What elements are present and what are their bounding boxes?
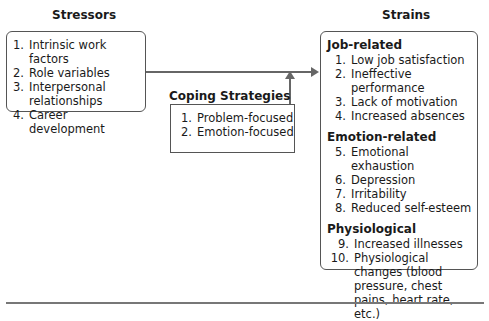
section-title-emotion-related: Emotion-related	[327, 129, 473, 145]
list-item: 5.Emotional exhaustion	[335, 145, 473, 173]
list-item: 6.Depression	[335, 173, 473, 187]
section-title-job-related: Job-related	[327, 37, 473, 53]
list-item: 2.Ineffective performance	[335, 67, 473, 95]
arrow-right-icon	[311, 67, 319, 77]
stressors-list: 1.Intrinsic work factors 2.Role variable…	[13, 38, 139, 136]
emotion-related-list: 5.Emotional exhaustion 6.Depression 7.Ir…	[327, 145, 473, 215]
stressors-heading: Stressors	[52, 8, 116, 22]
list-item: 9.Increased illnesses	[329, 237, 473, 251]
list-item: 1.Intrinsic work factors	[13, 38, 139, 66]
list-item: 7.Irritability	[335, 187, 473, 201]
physiological-list: 9.Increased illnesses 10.Physiological c…	[327, 237, 473, 321]
list-item: 2.Role variables	[13, 66, 139, 80]
stressors-box: 1.Intrinsic work factors 2.Role variable…	[6, 31, 146, 112]
list-item: 10.Physiological changes (blood pressure…	[329, 251, 473, 321]
list-item: 3.Lack of motivation	[335, 95, 473, 109]
coping-list: 1.Problem-focused 2.Emotion-focused	[181, 111, 294, 139]
coping-heading: Coping Strategies	[169, 89, 290, 103]
list-item: 8.Reduced self-esteem	[335, 201, 473, 215]
job-related-list: 1.Low job satisfaction 2.Ineffective per…	[327, 53, 473, 123]
bottom-divider	[6, 302, 484, 304]
list-item: 1.Problem-focused	[181, 111, 294, 125]
list-item: 1.Low job satisfaction	[335, 53, 473, 67]
list-item: 4.Career development	[13, 108, 139, 136]
list-item: 3.Interpersonal relationships	[13, 80, 139, 108]
list-item: 2.Emotion-focused	[181, 125, 294, 139]
strains-heading: Strains	[382, 8, 430, 22]
coping-box: 1.Problem-focused 2.Emotion-focused	[170, 104, 295, 153]
strains-box: Job-related 1.Low job satisfaction 2.Ine…	[320, 31, 478, 270]
list-item: 4.Increased absences	[335, 109, 473, 123]
section-title-physiological: Physiological	[327, 221, 473, 237]
arrow-up-icon	[285, 71, 295, 79]
